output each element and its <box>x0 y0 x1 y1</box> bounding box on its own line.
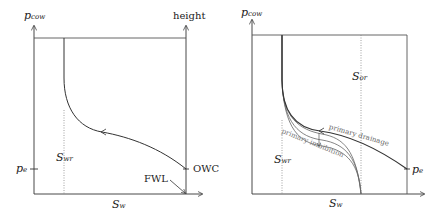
imbibition-curve-1 <box>282 35 361 194</box>
left-x-axis-label: Sw <box>112 199 126 210</box>
left-drainage-curve <box>64 38 186 169</box>
right-drainage-curve <box>282 35 407 169</box>
left-fwl-pointer <box>170 180 185 193</box>
right-diagram <box>252 20 424 194</box>
left-height-label: height <box>173 11 205 21</box>
right-sor-label: Sor <box>352 71 367 82</box>
left-diagram <box>30 26 202 194</box>
left-y-axis-label: pcow <box>24 10 45 21</box>
right-x-axis-label: Sw <box>329 198 343 209</box>
left-swr-label: Swr <box>56 152 73 163</box>
capillary-pressure-diagrams <box>0 0 436 216</box>
left-fwl-label: FWL <box>144 174 168 184</box>
imbibition-curve-2 <box>282 35 361 194</box>
left-pe-label: pe <box>16 163 27 174</box>
left-owc-label: OWC <box>193 164 219 174</box>
right-swr-label: Swr <box>274 154 291 165</box>
imbibition-curve-3 <box>282 35 361 194</box>
right-y-axis-label: pcow <box>241 7 262 18</box>
right-pe-label: pe <box>412 164 423 175</box>
